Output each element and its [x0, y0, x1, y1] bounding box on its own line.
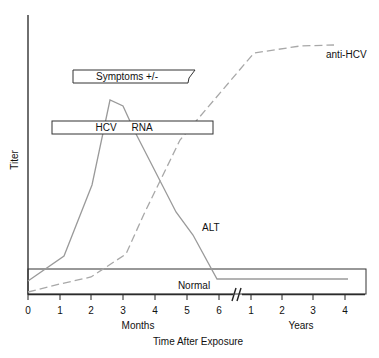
rna-label: RNA: [131, 122, 152, 133]
symptoms-label: Symptoms +/-: [96, 71, 158, 82]
x-tick-labels: 0 1 2 3 4 5 6 1 2 3 4: [25, 305, 348, 316]
normal-label: Normal: [178, 280, 210, 291]
hcv-chart: 0 1 2 3 4 5 6 1 2 3 4 Months Years Time …: [0, 0, 379, 358]
years-label: Years: [288, 320, 313, 331]
svg-text:3: 3: [120, 305, 126, 316]
svg-text:2: 2: [88, 305, 94, 316]
months-label: Months: [122, 320, 155, 331]
svg-text:1: 1: [248, 305, 254, 316]
hcv-label: HCV: [95, 122, 116, 133]
alt-label: ALT: [202, 222, 220, 233]
svg-text:2: 2: [279, 305, 285, 316]
svg-text:4: 4: [342, 305, 348, 316]
svg-text:5: 5: [184, 305, 190, 316]
y-axis-title: Titer: [9, 150, 20, 170]
anti-hcv-label: anti-HCV: [326, 49, 367, 60]
x-axis-title: Time After Exposure: [153, 336, 244, 347]
svg-text:4: 4: [152, 305, 158, 316]
x-ticks: [28, 295, 345, 300]
svg-text:3: 3: [310, 305, 316, 316]
svg-text:1: 1: [57, 305, 63, 316]
svg-text:6: 6: [216, 305, 222, 316]
svg-text:0: 0: [25, 305, 31, 316]
